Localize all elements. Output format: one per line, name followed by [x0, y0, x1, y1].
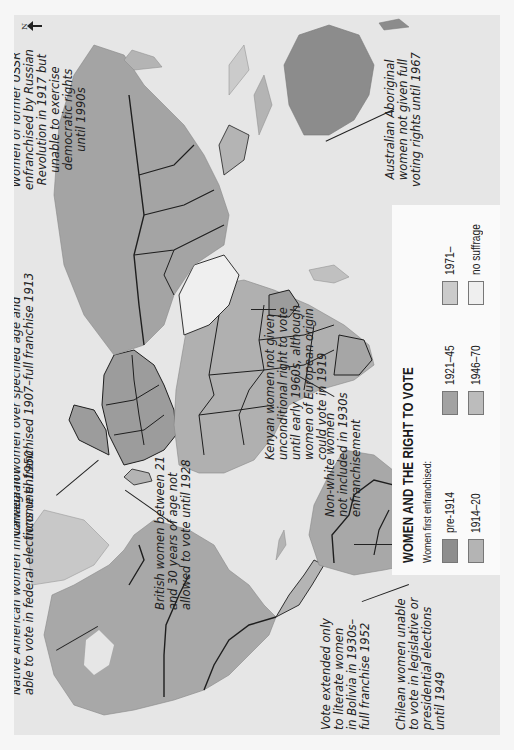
southeast-asia [219, 125, 249, 175]
new-zealand [379, 19, 409, 30]
europe [102, 350, 176, 465]
central-america [276, 560, 324, 617]
annotation-british: British women between 21 and 30 years of… [154, 456, 193, 610]
rotated-map-page: Native American women in Canada not able… [0, 0, 514, 750]
annotation-norwegian: Norwegian women over specified age and i… [14, 273, 36, 539]
legend: WOMEN AND THE RIGHT TO VOTE Women first … [392, 205, 500, 575]
legend-swatch-no-suffrage [468, 281, 484, 305]
legend-swatch-1921-45 [442, 391, 458, 415]
annotation-ussr: Women of former USSR enfranchised by Rus… [14, 49, 88, 190]
map-panel: Native American women in Canada not able… [14, 15, 500, 735]
legend-label-1946-70: 1946–70 [469, 345, 483, 385]
scandinavia [69, 405, 109, 455]
legend-label-pre-1914: pre-1914 [443, 492, 457, 533]
legend-swatch-1946-70 [468, 391, 484, 415]
legend-subtitle: Women first enfranchised: [421, 461, 433, 563]
madagascar [309, 265, 349, 283]
legend-label-no-suffrage: no suffrage [469, 224, 483, 275]
annotation-bolivia: Vote extended only to literate women in … [320, 618, 372, 730]
legend-label-1914-20: 1914–20 [469, 493, 483, 533]
legend-label-1971: 1971– [443, 247, 457, 275]
annotation-kenyan: Kenyan women not given unconditional rig… [264, 305, 329, 460]
legend-swatch-1914-20 [468, 539, 484, 563]
north-arrow-shaft-icon [30, 25, 42, 27]
british-isles [124, 469, 152, 485]
legend-title: WOMEN AND THE RIGHT TO VOTE [400, 367, 416, 563]
australia [284, 25, 374, 135]
legend-label-1921-45: 1921–45 [443, 345, 457, 385]
legend-swatch-pre-1914 [442, 539, 458, 563]
annotation-non-white: Non-white women not included in 1930s en… [324, 392, 363, 517]
annotation-australian: Australian Aboriginal women not given fu… [384, 52, 423, 187]
annotation-chilean: Chilean women unable to vote in legislat… [395, 598, 447, 730]
legend-swatch-1971 [442, 281, 458, 305]
north-arrow: N [20, 19, 44, 33]
